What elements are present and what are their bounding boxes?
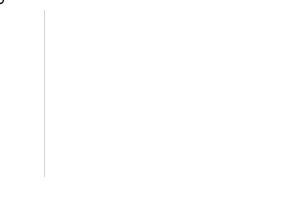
chart-container — [0, 0, 301, 219]
chart-background — [0, 0, 301, 219]
annotation-group — [0, 0, 3, 3]
total-endpoint-marker — [0, 0, 3, 3]
line-chart — [0, 0, 301, 219]
